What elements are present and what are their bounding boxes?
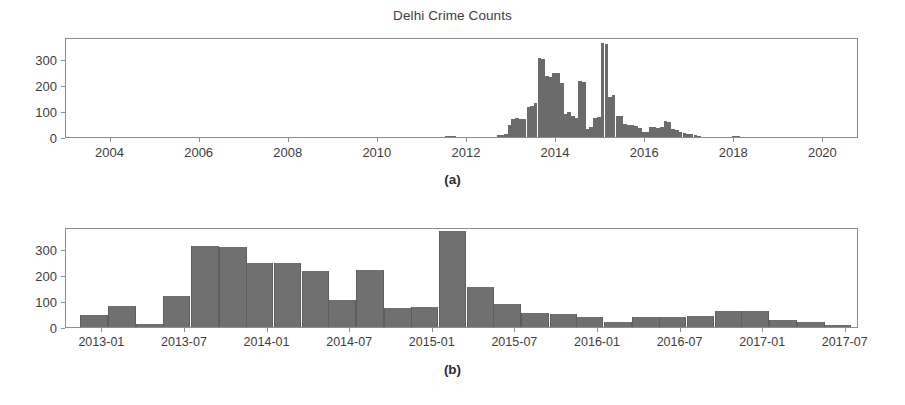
histogram-bar — [576, 317, 604, 327]
x-tick-label: 2015-07 — [491, 335, 537, 349]
histogram-bar — [632, 317, 660, 327]
x-tick-label: 2014-01 — [244, 335, 290, 349]
y-tick-label: 200 — [3, 269, 57, 284]
histogram-bars-b — [66, 229, 857, 327]
x-tick-mark — [680, 328, 681, 332]
x-tick-label: 2018 — [719, 145, 748, 160]
histogram-bar — [697, 136, 701, 137]
panel-a: Delhi Crime Counts 0100200300 2004200620… — [0, 0, 905, 200]
histogram-bar — [467, 287, 495, 327]
y-tick-mark — [61, 250, 65, 251]
x-tick-mark — [267, 328, 268, 332]
histogram-bar — [163, 296, 191, 327]
x-tick-mark — [597, 328, 598, 332]
histogram-bar — [246, 263, 274, 327]
chart-title: Delhi Crime Counts — [0, 8, 905, 23]
x-tick-label: 2008 — [273, 145, 302, 160]
y-tick-mark — [61, 138, 65, 139]
histogram-bar — [741, 311, 769, 327]
x-tick-mark — [733, 138, 734, 142]
y-tick-mark — [61, 328, 65, 329]
x-tick-label: 2006 — [184, 145, 213, 160]
x-tick-mark — [555, 138, 556, 142]
histogram-bar — [136, 324, 164, 327]
y-tick-mark — [61, 60, 65, 61]
y-tick-label: 0 — [3, 321, 57, 336]
x-tick-label: 2016-01 — [574, 335, 620, 349]
x-tick-mark — [199, 138, 200, 142]
histogram-bar — [356, 270, 384, 327]
x-tick-label: 2016-07 — [657, 335, 703, 349]
plot-area-a — [65, 38, 858, 138]
histogram-bar — [687, 316, 715, 327]
x-tick-label: 2014 — [541, 145, 570, 160]
x-tick-label: 2020 — [808, 145, 837, 160]
histogram-bars-a — [66, 39, 857, 137]
histogram-bar — [191, 246, 219, 327]
x-tick-mark — [110, 138, 111, 142]
y-tick-mark — [61, 302, 65, 303]
panel-b: 0100200300 2013-012013-072014-012014-072… — [0, 200, 905, 405]
histogram-bar — [604, 322, 632, 327]
x-tick-label: 2017-01 — [739, 335, 785, 349]
histogram-bar — [411, 307, 439, 327]
histogram-bar — [797, 322, 825, 327]
x-tick-label: 2015-01 — [409, 335, 455, 349]
histogram-bar — [659, 317, 687, 327]
y-tick-label: 300 — [3, 243, 57, 258]
x-tick-mark — [466, 138, 467, 142]
histogram-bar — [550, 314, 578, 328]
histogram-bar — [736, 136, 740, 137]
histogram-bar — [769, 320, 797, 327]
x-tick-mark — [432, 328, 433, 332]
y-tick-mark — [61, 86, 65, 87]
x-tick-label: 2014-07 — [326, 335, 372, 349]
figure-delhi-crime-counts: Delhi Crime Counts 0100200300 2004200620… — [0, 0, 905, 405]
x-tick-mark — [514, 328, 515, 332]
x-tick-mark — [101, 328, 102, 332]
histogram-bar — [715, 311, 743, 327]
histogram-bar — [219, 247, 247, 327]
histogram-bar — [439, 231, 467, 327]
histogram-bar — [521, 313, 549, 327]
histogram-bar — [452, 136, 456, 137]
plot-area-b — [65, 228, 858, 328]
x-tick-mark — [822, 138, 823, 142]
x-tick-label: 2012 — [451, 145, 480, 160]
y-tick-label: 200 — [3, 79, 57, 94]
x-tick-mark — [288, 138, 289, 142]
y-tick-label: 0 — [3, 131, 57, 146]
x-tick-label: 2013-01 — [78, 335, 124, 349]
x-tick-mark — [762, 328, 763, 332]
x-tick-label: 2004 — [95, 145, 124, 160]
histogram-bar — [108, 306, 136, 327]
y-tick-label: 100 — [3, 105, 57, 120]
panel-letter-a: (a) — [0, 172, 905, 187]
x-tick-label: 2010 — [362, 145, 391, 160]
x-tick-mark — [349, 328, 350, 332]
histogram-bar — [824, 325, 852, 327]
y-tick-mark — [61, 276, 65, 277]
y-tick-mark — [61, 112, 65, 113]
histogram-bar — [302, 271, 330, 327]
y-tick-label: 100 — [3, 295, 57, 310]
histogram-bar — [80, 315, 108, 327]
x-tick-mark — [377, 138, 378, 142]
histogram-bar — [493, 304, 521, 327]
x-tick-label: 2013-07 — [161, 335, 207, 349]
x-tick-label: 2017-07 — [822, 335, 868, 349]
histogram-bar — [274, 263, 302, 327]
panel-letter-b: (b) — [0, 362, 905, 377]
histogram-bar — [328, 300, 356, 327]
histogram-bar — [384, 308, 412, 327]
y-tick-label: 300 — [3, 53, 57, 68]
x-tick-mark — [184, 328, 185, 332]
x-tick-mark — [644, 138, 645, 142]
x-tick-mark — [845, 328, 846, 332]
x-tick-label: 2016 — [630, 145, 659, 160]
